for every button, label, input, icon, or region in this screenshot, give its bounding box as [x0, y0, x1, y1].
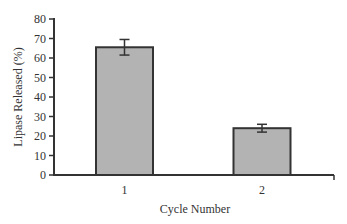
x-tick-label: 2: [259, 183, 265, 197]
bar-cycle-2: [234, 128, 291, 175]
y-tick-label: 40: [34, 90, 46, 104]
x-tick-label: 1: [122, 183, 128, 197]
y-axis-ticks: 01020304050607080: [34, 12, 54, 182]
y-tick-label: 70: [34, 32, 46, 46]
bar-chart: 01020304050607080 12 Cycle Number Lipase…: [0, 0, 347, 224]
y-tick-label: 50: [34, 71, 46, 85]
x-axis-label: Cycle Number: [160, 202, 230, 216]
y-tick-label: 30: [34, 110, 46, 124]
bar-cycle-1: [96, 47, 153, 175]
y-tick-label: 10: [34, 149, 46, 163]
y-tick-label: 0: [40, 168, 46, 182]
y-tick-label: 80: [34, 12, 46, 26]
bars: 12: [96, 39, 291, 197]
y-axis-label: Lipase Released (%): [11, 47, 25, 146]
y-tick-label: 60: [34, 51, 46, 65]
y-tick-label: 20: [34, 129, 46, 143]
